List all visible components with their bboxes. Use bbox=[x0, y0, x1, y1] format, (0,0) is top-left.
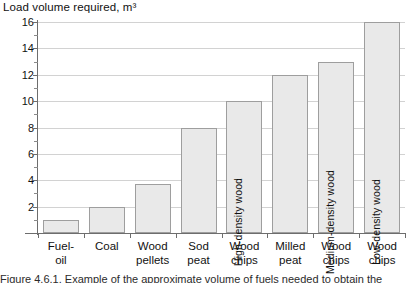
x-axis-tick bbox=[405, 233, 406, 238]
y-axis-tick bbox=[33, 154, 38, 155]
y-axis-tick bbox=[33, 48, 38, 49]
gridline bbox=[38, 48, 405, 49]
figure-caption: Figure 4.6.1. Example of the approximate… bbox=[0, 273, 410, 283]
y-axis-minor-tick bbox=[34, 167, 38, 168]
x-axis-tick-label-line: peat bbox=[267, 254, 313, 268]
y-axis-tick-label: 4 bbox=[4, 174, 34, 186]
y-axis-minor-tick bbox=[34, 35, 38, 36]
y-axis-minor-tick bbox=[34, 62, 38, 63]
x-axis-tick-label-line: peat bbox=[176, 254, 222, 268]
x-axis-tick bbox=[222, 233, 223, 238]
x-axis-tick-label-line: Fuel- bbox=[38, 240, 84, 254]
x-axis-tick-label: Woodchips bbox=[313, 240, 359, 267]
plot-area: High-density woodMedium-density woodLow-… bbox=[38, 22, 405, 233]
x-axis-tick-label-line: pellets bbox=[130, 254, 176, 268]
x-axis-tick bbox=[313, 233, 314, 238]
x-axis-tick-label: Coal bbox=[84, 240, 130, 254]
y-axis-tick-label: 12 bbox=[4, 69, 34, 81]
x-axis-tick-label-line: oil bbox=[38, 254, 84, 268]
x-axis-tick-label-line: Coal bbox=[84, 240, 130, 254]
bar bbox=[181, 128, 217, 234]
y-axis-minor-tick bbox=[34, 88, 38, 89]
y-axis-tick-labels: 161412108642 bbox=[0, 0, 34, 283]
x-axis-tick bbox=[359, 233, 360, 238]
bar: Low-density wood bbox=[364, 22, 400, 233]
x-axis-tick-label: Milledpeat bbox=[267, 240, 313, 267]
y-axis-tick-label: 2 bbox=[4, 201, 34, 213]
y-axis-tick-label: 8 bbox=[4, 122, 34, 134]
y-axis-tick bbox=[33, 22, 38, 23]
bar bbox=[272, 75, 308, 233]
y-axis-minor-tick bbox=[34, 220, 38, 221]
x-axis-tick bbox=[267, 233, 268, 238]
bar bbox=[135, 184, 171, 233]
bar-chart: Load volume required, m³ 161412108642 Hi… bbox=[0, 0, 410, 283]
x-axis-tick bbox=[38, 233, 39, 238]
y-axis-minor-tick bbox=[34, 114, 38, 115]
x-axis-tick-label-line: Wood bbox=[130, 240, 176, 254]
x-axis-tick-label: Woodchips bbox=[222, 240, 268, 267]
x-axis-tick-label-line: chips bbox=[359, 254, 405, 268]
x-axis-tick-label: Sodpeat bbox=[176, 240, 222, 267]
x-axis-tick-label-line: Sod bbox=[176, 240, 222, 254]
x-axis-tick-label-line: chips bbox=[313, 254, 359, 268]
y-axis-tick bbox=[33, 180, 38, 181]
y-axis-tick bbox=[33, 75, 38, 76]
x-axis-line bbox=[25, 233, 405, 234]
x-axis-tick-label-line: Wood bbox=[313, 240, 359, 254]
bar: Medium-density wood bbox=[318, 62, 354, 233]
y-axis-tick bbox=[33, 101, 38, 102]
x-axis-tick bbox=[130, 233, 131, 238]
x-axis-tick-label-line: chips bbox=[222, 254, 268, 268]
y-axis-tick bbox=[33, 128, 38, 129]
y-axis-minor-tick bbox=[34, 193, 38, 194]
y-axis-tick-label: 16 bbox=[4, 16, 34, 28]
x-axis-tick bbox=[176, 233, 177, 238]
y-axis-minor-tick bbox=[34, 141, 38, 142]
x-axis-tick-label-line: Wood bbox=[359, 240, 405, 254]
bar bbox=[89, 207, 125, 233]
x-axis-tick-label-line: Wood bbox=[222, 240, 268, 254]
x-axis-tick-label: Woodpellets bbox=[130, 240, 176, 267]
x-axis-tick bbox=[84, 233, 85, 238]
x-axis-tick-label: Fuel-oil bbox=[38, 240, 84, 267]
bar: High-density wood bbox=[226, 101, 262, 233]
y-axis-tick-label: 10 bbox=[4, 95, 34, 107]
bar bbox=[43, 220, 79, 233]
gridline bbox=[38, 22, 405, 23]
y-axis-tick bbox=[33, 207, 38, 208]
x-axis-tick-label-line: Milled bbox=[267, 240, 313, 254]
y-axis-tick-label: 6 bbox=[4, 148, 34, 160]
y-axis-tick-label: 14 bbox=[4, 42, 34, 54]
x-axis-tick-label: Woodchips bbox=[359, 240, 405, 267]
